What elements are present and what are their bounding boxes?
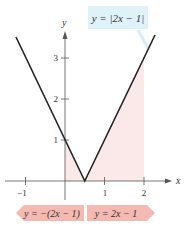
x-axis-arrow-icon [165, 179, 172, 184]
shaded-area [65, 58, 144, 181]
label-leader-line [138, 30, 148, 48]
xtick-label-1: 1 [103, 188, 108, 198]
curve-label: y = |2x − 1| [91, 12, 145, 24]
ytick-label-3: 3 [54, 53, 59, 63]
right-piece-label: y = 2x − 1 [94, 208, 137, 219]
left-piece-label: y = −(2x − 1) [23, 208, 80, 220]
y-axis-arrow-icon [63, 31, 68, 39]
x-axis-label: x [175, 175, 181, 186]
ytick-label-2: 2 [54, 94, 59, 104]
y-axis-label: y [61, 17, 67, 28]
xtick-label-2: 2 [142, 188, 147, 198]
absolute-value-graph: y = |2x − 1| x y −1 1 2 1 2 3 y = −(2x −… [0, 0, 186, 229]
ytick-label-1: 1 [54, 135, 59, 145]
xtick-label-neg1: −1 [17, 188, 27, 198]
